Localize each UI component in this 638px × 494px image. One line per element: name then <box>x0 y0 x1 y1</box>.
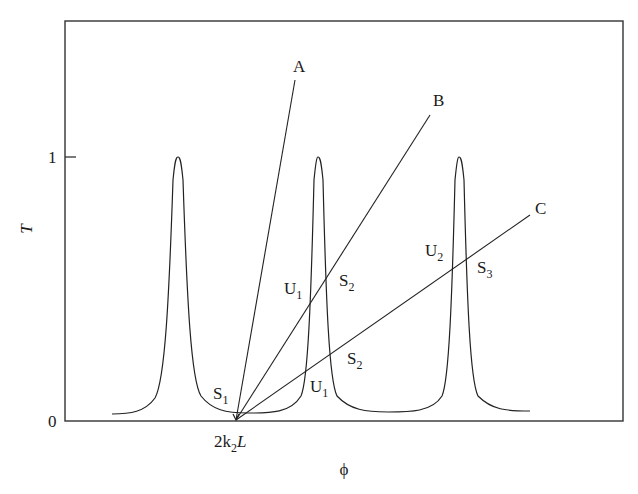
y-tick-label-1: 1 <box>48 148 57 167</box>
point-label-U1-C: U1 <box>310 377 328 400</box>
x-axis-title: ϕ <box>340 460 349 479</box>
bistability-diagram: 1 0 T ϕ 2k2L A B C S1 U1 S2 U1 S2 U2 S3 <box>0 0 638 494</box>
plot-frame <box>65 21 623 421</box>
point-label-S2-B: S2 <box>339 271 354 294</box>
y-axis-title: T <box>17 223 36 234</box>
line-label-B: B <box>433 91 444 110</box>
point-label-S3: S3 <box>477 258 492 281</box>
x-tick-label-2k2L: 2k2L <box>214 432 246 455</box>
point-label-U1-B: U1 <box>284 279 302 302</box>
point-label-U2: U2 <box>425 241 443 264</box>
point-label-S1: S1 <box>213 384 228 407</box>
point-label-S2-C: S2 <box>347 349 362 372</box>
y-tick-label-0: 0 <box>48 412 57 431</box>
load-line-C <box>236 215 530 420</box>
line-label-C: C <box>535 199 546 218</box>
load-line-B <box>236 115 430 420</box>
line-label-A: A <box>293 57 306 76</box>
load-line-A <box>236 80 295 420</box>
